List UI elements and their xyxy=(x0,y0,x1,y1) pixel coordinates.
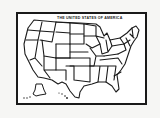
alaska-inset xyxy=(33,84,46,96)
usa-outline-map xyxy=(0,0,160,118)
us-mainland-outline xyxy=(24,20,139,98)
